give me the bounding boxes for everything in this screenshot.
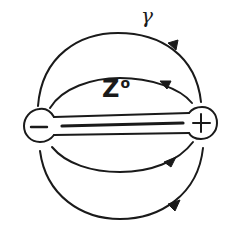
z-string-top-edge [54, 113, 189, 117]
negative-charge-circle [24, 109, 54, 142]
field-diagram [0, 0, 239, 234]
z-boson-label: Zo [102, 76, 130, 101]
z-label-base: Z [102, 75, 119, 103]
plus-sign-icon [193, 114, 210, 132]
arrow-inner-bottom-icon [164, 157, 176, 167]
gamma-label: γ [141, 6, 153, 26]
z-string-core [62, 123, 183, 126]
z-string-bottom-edge [54, 133, 189, 135]
z-label-superscript: o [120, 75, 130, 91]
diagram-canvas: γ Zo [0, 0, 239, 234]
inner-bottom-field-line [52, 142, 193, 172]
arrow-outer-bottom-icon [168, 200, 180, 211]
